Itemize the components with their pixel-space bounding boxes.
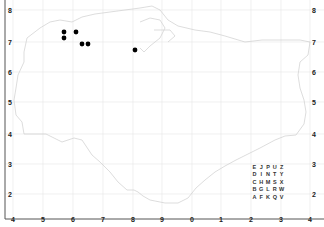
x-tick-label: 1	[219, 216, 223, 223]
letter-key-cell: T	[271, 171, 278, 178]
letter-key-cell: K	[265, 194, 272, 201]
y-tick-label-left: 8	[8, 7, 12, 14]
y-tick-label-right: 4	[312, 131, 316, 138]
y-tick-label-right: 7	[312, 39, 316, 46]
letter-key-cell: R	[271, 186, 278, 193]
y-tick-label-right: 5	[312, 99, 316, 106]
letter-key-row: EJPUZ	[251, 164, 285, 171]
x-tick-label: 0	[190, 216, 194, 223]
letter-key-cell: U	[271, 164, 278, 171]
letter-key-cell: J	[258, 164, 265, 171]
letter-key-cell: G	[258, 186, 265, 193]
y-tick-label-right: 3	[312, 161, 316, 168]
y-tick-label-left: 2	[8, 191, 12, 198]
y-tick-label-left: 5	[8, 99, 12, 106]
letter-key-row: AFKQV	[251, 194, 285, 201]
letter-key-cell: H	[258, 179, 265, 186]
y-tick-label-right: 2	[312, 191, 316, 198]
letter-key-row: DINTY	[251, 171, 285, 178]
letter-key-cell: I	[258, 171, 265, 178]
letter-key-cell: F	[258, 194, 265, 201]
y-tick-label-right: 8	[312, 7, 316, 14]
letter-key-cell: W	[278, 186, 285, 193]
letter-key-cell: S	[271, 179, 278, 186]
letter-key-cell: M	[265, 179, 272, 186]
letter-key-cell: Q	[271, 194, 278, 201]
letter-key-cell: V	[278, 194, 285, 201]
record-dot	[62, 36, 67, 41]
x-tick-label: 7	[101, 216, 105, 223]
letter-key-cell: C	[251, 179, 258, 186]
x-tick-label: 3	[279, 216, 283, 223]
record-dot	[133, 48, 138, 53]
letter-key-cell: Z	[278, 164, 285, 171]
letter-key-cell: P	[265, 164, 272, 171]
letter-key-cell: B	[251, 186, 258, 193]
letter-key-cell: E	[251, 164, 258, 171]
y-tick-label-left: 4	[8, 131, 12, 138]
x-tick-label: 5	[41, 216, 45, 223]
letter-key-cell: L	[265, 186, 272, 193]
letter-key-cell: D	[251, 171, 258, 178]
letter-key-cell: N	[265, 171, 272, 178]
x-tick-label: 4	[11, 216, 15, 223]
y-tick-label-left: 3	[8, 161, 12, 168]
y-tick-label-right: 6	[312, 69, 316, 76]
record-dot	[80, 42, 85, 47]
letter-key-cell: Y	[278, 171, 285, 178]
grid-letter-key: EJPUZDINTYCHMSXBGLRWAFKQV	[251, 164, 285, 201]
letter-key-cell: A	[251, 194, 258, 201]
letter-key-cell: X	[278, 179, 285, 186]
y-tick-label-left: 7	[8, 39, 12, 46]
x-tick-label: 9	[160, 216, 164, 223]
letter-key-row: BGLRW	[251, 186, 285, 193]
record-dot	[62, 30, 67, 35]
x-tick-label: 6	[71, 216, 75, 223]
x-tick-label: 2	[249, 216, 253, 223]
record-dot	[74, 30, 79, 35]
x-tick-label: 4	[308, 216, 312, 223]
letter-key-row: CHMSX	[251, 179, 285, 186]
y-tick-label-left: 6	[8, 69, 12, 76]
record-dot	[86, 42, 91, 47]
x-tick-label: 8	[131, 216, 135, 223]
